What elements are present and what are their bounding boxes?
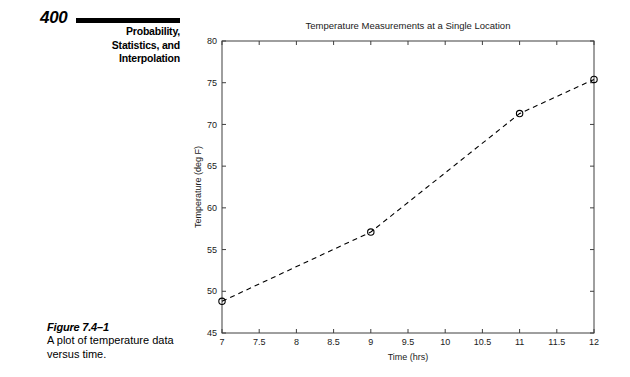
chapter-title-line-3: Interpolation <box>40 52 180 66</box>
x-axis-label: Time (hrs) <box>388 352 429 362</box>
x-tick-label: 9 <box>368 337 373 347</box>
x-axis-tick-labels: 77.588.599.51010.51111.512 <box>219 337 599 347</box>
chapter-title: Probability, Statistics, and Interpolati… <box>40 25 180 66</box>
book-page: 400 Probability, Statistics, and Interpo… <box>0 0 630 377</box>
x-tick-label: 10 <box>440 337 450 347</box>
x-axis-ticks <box>222 41 594 333</box>
chart-title: Temperature Measurements at a Single Loc… <box>306 20 511 31</box>
y-axis-label: Temperature (deg F) <box>193 146 203 228</box>
data-point-markers <box>219 76 597 304</box>
x-tick-label: 8 <box>294 337 299 347</box>
figure-caption: Figure 7.4–1 A plot of temperature data … <box>47 321 207 361</box>
header-rule <box>76 18 180 23</box>
y-tick-label: 45 <box>207 328 217 338</box>
x-tick-label: 11.5 <box>548 337 565 347</box>
chapter-title-line-2: Statistics, and <box>40 39 180 53</box>
x-tick-label: 11 <box>515 337 524 347</box>
y-tick-label: 60 <box>207 203 217 213</box>
temperature-line-chart: Temperature Measurements at a Single Loc… <box>190 14 630 374</box>
y-axis-tick-labels: 4550556065707580 <box>207 36 217 338</box>
y-tick-label: 75 <box>207 78 217 88</box>
x-tick-label: 12 <box>589 337 599 347</box>
y-tick-label: 55 <box>207 245 217 255</box>
figure-caption-label: Figure 7.4–1 <box>47 321 207 333</box>
y-tick-label: 50 <box>207 286 217 296</box>
x-tick-label: 7.5 <box>253 337 266 347</box>
y-tick-label: 65 <box>207 161 217 171</box>
figure-caption-text: A plot of temperature data versus time. <box>47 334 207 361</box>
x-tick-label: 7 <box>219 337 224 347</box>
y-axis-ticks <box>222 41 594 333</box>
axes-box <box>222 41 594 333</box>
x-tick-label: 8.5 <box>327 337 340 347</box>
page-header: 400 Probability, Statistics, and Interpo… <box>0 0 215 70</box>
y-tick-label: 70 <box>207 120 217 130</box>
chapter-title-line-1: Probability, <box>40 25 180 39</box>
data-series-line <box>222 79 594 301</box>
chart-figure: Temperature Measurements at a Single Loc… <box>190 14 630 374</box>
x-tick-label: 9.5 <box>402 337 415 347</box>
y-tick-label: 80 <box>207 36 217 46</box>
x-tick-label: 10.5 <box>474 337 492 347</box>
